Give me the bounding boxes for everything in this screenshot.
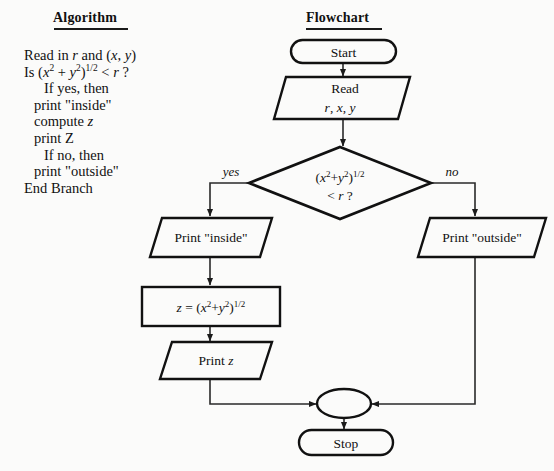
edge-printz-to-merge: [210, 379, 316, 404]
node-decision[interactable]: (x2+y2)1/2 < r ?: [249, 147, 431, 219]
flowchart-figure: Algorithm Flowchart Read in r and (x, y)…: [0, 0, 554, 471]
edge-decision-no: [431, 183, 475, 216]
branch-label-yes: yes: [221, 164, 240, 179]
node-print-z[interactable]: Print z: [160, 342, 272, 379]
node-start-label: Start: [331, 45, 357, 60]
edge-outside-to-merge: [372, 257, 475, 404]
node-read-label-line1: Read: [331, 81, 359, 96]
node-print-inside[interactable]: Print "inside": [150, 218, 272, 257]
node-print-outside[interactable]: Print "outside": [418, 218, 546, 257]
node-read[interactable]: Read r, x, y: [274, 77, 410, 119]
flowchart-canvas: yes no Start Read r, x, y (x2+y2)1/2 < r…: [0, 0, 554, 471]
node-merge-connector[interactable]: [317, 389, 371, 418]
node-compute-z[interactable]: z = (x2+y2)1/2: [142, 287, 280, 326]
node-read-label-line2: r, x, y: [325, 100, 356, 115]
node-start[interactable]: Start: [291, 40, 396, 63]
branch-label-no: no: [446, 164, 460, 179]
edge-decision-yes: [210, 183, 250, 216]
node-stop-label: Stop: [334, 436, 359, 451]
node-stop[interactable]: Stop: [299, 430, 393, 455]
node-print-inside-label: Print "inside": [175, 230, 248, 245]
node-print-z-label: Print z: [199, 353, 235, 368]
node-print-outside-label: Print "outside": [442, 230, 522, 245]
node-decision-label-line2: < r ?: [327, 188, 353, 203]
